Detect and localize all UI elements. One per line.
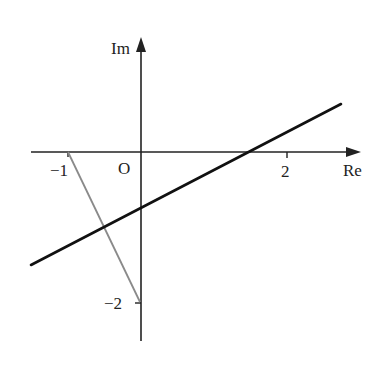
origin-label: O (118, 159, 130, 178)
complex-plane-diagram: Im Re O −1 2 −2 (0, 0, 387, 373)
tick-label-x-2: 2 (281, 162, 290, 181)
tick-label-y-neg2: −2 (104, 294, 122, 313)
real-axis-arrow-icon (346, 147, 361, 157)
imaginary-axis-arrow-icon (136, 37, 146, 52)
perpendicular-bisector-line (31, 104, 341, 265)
tick-label-x-neg1: −1 (50, 161, 68, 180)
real-axis-label: Re (343, 161, 362, 180)
imaginary-axis-label: Im (111, 39, 130, 58)
